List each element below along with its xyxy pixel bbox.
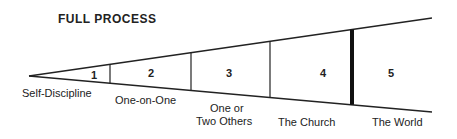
segment-3-number: 3 xyxy=(226,67,232,79)
segment-3-label-line1: One or xyxy=(210,102,244,115)
segment-3-label-line2: Two Others xyxy=(196,115,252,128)
segment-4-number: 4 xyxy=(320,67,326,79)
segment-5-label: The World xyxy=(372,116,423,129)
segment-1-number: 1 xyxy=(91,69,97,81)
segment-2-number: 2 xyxy=(148,67,154,79)
segment-5-number: 5 xyxy=(388,67,394,79)
segment-2-label: One-on-One xyxy=(115,94,176,107)
segment-1-label: Self-Discipline xyxy=(22,87,92,100)
segment-4-label: The Church xyxy=(278,116,335,129)
